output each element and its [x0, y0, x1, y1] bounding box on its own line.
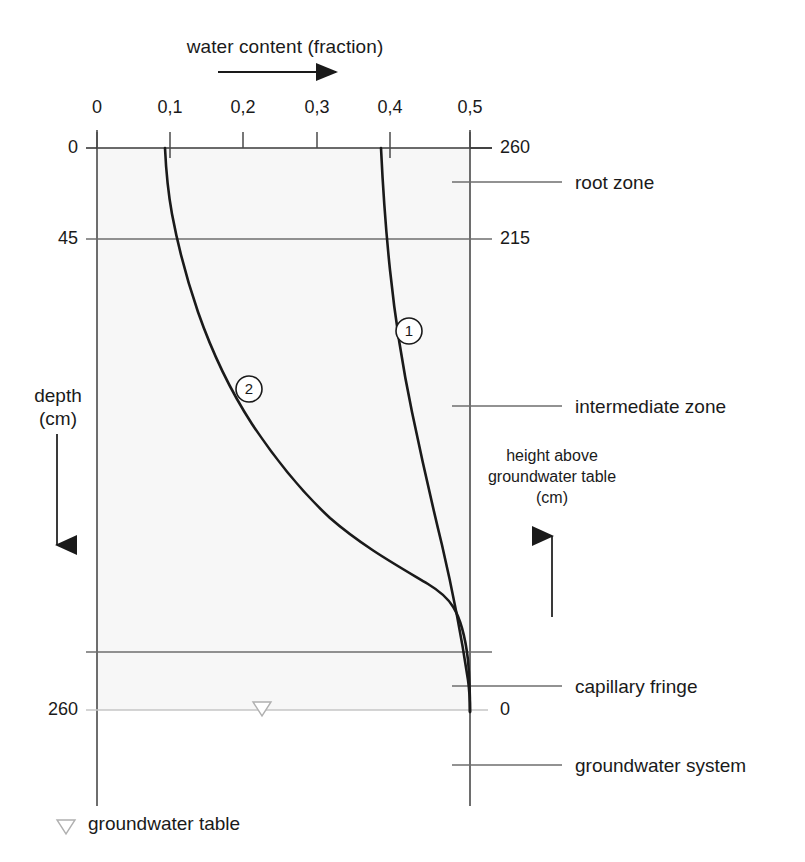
curve-2-badge-label: 2: [236, 380, 262, 398]
xtick-label-0.3: 0,3: [293, 97, 341, 118]
zone-label-root-zone: root zone: [575, 172, 654, 194]
zone-label-capillary-fringe: capillary fringe: [575, 676, 698, 698]
right-axis-title-line3: (cm): [472, 489, 632, 508]
left-axis-title-line2: (cm): [18, 408, 98, 430]
plot-canvas: [0, 0, 805, 862]
xtick-label-0.4: 0,4: [366, 97, 414, 118]
xtick-label-0.2: 0,2: [219, 97, 267, 118]
ytick-label-height-260: 260: [500, 137, 530, 158]
left-axis-title-line1: depth: [18, 385, 98, 407]
legend-groundwater-table-icon: [57, 820, 75, 834]
chart-title: water content (fraction): [105, 36, 465, 58]
right-axis-title-line1: height above: [472, 447, 632, 466]
right-axis-title-line2: groundwater table: [462, 468, 642, 487]
curve-1-badge-label: 1: [396, 322, 422, 340]
xtick-label-0.5: 0,5: [446, 97, 494, 118]
water-content-depth-figure: water content (fraction) 0 0,1 0,2 0,3 0…: [0, 0, 805, 862]
ytick-label-depth-0: 0: [38, 137, 78, 158]
legend-label-groundwater-table: groundwater table: [88, 813, 240, 835]
ytick-label-height-215: 215: [500, 228, 530, 249]
zone-label-groundwater-system: groundwater system: [575, 755, 746, 777]
plot-panel: [97, 148, 470, 710]
ytick-label-depth-260: 260: [20, 699, 78, 720]
xtick-label-0: 0: [77, 97, 117, 118]
xtick-label-0.1: 0,1: [146, 97, 194, 118]
ytick-label-height-0: 0: [500, 699, 510, 720]
zone-label-intermediate-zone: intermediate zone: [575, 396, 726, 418]
ytick-label-depth-45: 45: [30, 228, 78, 249]
